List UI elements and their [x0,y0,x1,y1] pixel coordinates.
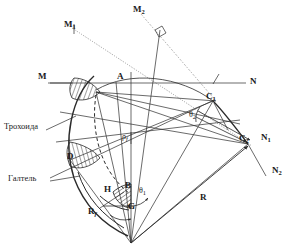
label-radius-Rf: Rf [88,207,97,218]
right-angle-mark [155,26,166,37]
label-point-C2: C2 [239,134,249,145]
label-point-N2: N2 [272,166,282,177]
diagram-canvas: Трохоида Галтель M M1 M2 N N1 N2 A B D G… [0,0,290,249]
normal-arrows [196,74,266,176]
radius-R-line [131,146,248,243]
label-theta2: θ2 [189,111,196,121]
label-trochoid: Трохоида [4,122,38,131]
label-rho-f-sub: f [126,135,128,142]
label-point-M1-base: M [64,19,73,29]
label-rho-f: ρf [122,133,128,143]
flank-arc-A-C1 [96,78,213,101]
label-point-M: M [38,72,47,81]
trochoid-leader [46,116,76,130]
label-point-C1-sub: 1 [213,95,216,102]
label-fillet: Галтель [8,174,36,183]
label-point-N1: N1 [261,133,271,144]
line-of-action-M1 [72,28,252,146]
label-point-D: D [67,152,74,161]
label-radius-Rf-sub: f [95,210,97,217]
label-radius-R: R [200,193,207,202]
label-theta1-sub: 1 [143,189,146,196]
label-point-M2-sub: 2 [142,8,145,15]
label-point-H: H [104,185,111,194]
label-theta2-sub: 2 [193,113,196,120]
label-point-M1: M1 [64,20,76,31]
geometry-svg [0,0,290,249]
label-point-N: N [250,77,257,86]
label-point-C1: C1 [206,92,216,103]
label-point-N2-sub: 2 [279,169,282,176]
label-point-M2: M2 [133,5,145,16]
label-point-A: A [117,72,124,81]
label-point-M1-sub: 1 [73,23,76,30]
label-point-G: G [128,202,135,211]
label-point-C2-sub: 2 [246,137,249,144]
label-theta1: θ1 [139,187,146,197]
label-point-N1-sub: 1 [268,136,271,143]
label-point-B: B [125,181,131,190]
label-point-M2-base: M [133,4,142,14]
